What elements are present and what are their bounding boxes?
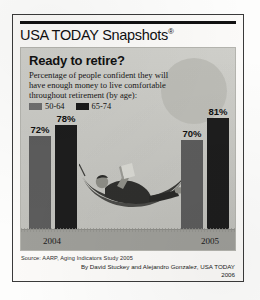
bar-2004-65-74: 78%	[55, 113, 77, 230]
bar-rect-2005-50-64	[181, 140, 203, 230]
hammock-illustration	[79, 144, 191, 230]
masthead-rule	[20, 21, 236, 24]
bar-rect-2004-65-74	[55, 125, 77, 230]
bar-2005-65-74: 81%	[207, 106, 229, 230]
bar-rect-2005-65-74	[207, 118, 229, 230]
bar-value-2004-65-74: 78%	[56, 113, 75, 124]
bar-2004-50-64: 72%	[29, 124, 51, 230]
brand-title: USA TODAY Snapshots®	[20, 27, 236, 43]
bar-value-2005-50-64: 70%	[182, 128, 201, 139]
axis-label-2004: 2004	[43, 236, 61, 246]
hammock-figure-icon	[79, 144, 191, 230]
bar-value-2005-65-74: 81%	[208, 106, 227, 117]
byline-credit: By David Stuckey and Alejandro Gonzalez,…	[35, 263, 235, 271]
clipping-frame: USA TODAY Snapshots® Ready to retire? Pe…	[12, 14, 244, 282]
brand-title-text: USA TODAY Snapshots	[20, 27, 168, 43]
masthead: USA TODAY Snapshots®	[20, 21, 236, 43]
ground-texture	[21, 228, 236, 232]
bar-value-2004-50-64: 72%	[30, 124, 49, 135]
snapshot-clipping: USA TODAY Snapshots® Ready to retire? Pe…	[0, 0, 260, 300]
byline: By David Stuckey and Alejandro Gonzalez,…	[35, 263, 235, 279]
source-note: Source: AARP, Aging Indicators Study 200…	[21, 255, 133, 261]
chart-panel: Ready to retire? Percentage of people co…	[20, 47, 236, 251]
plot-area: 72% 78% 70% 81%	[21, 48, 236, 251]
bar-rect-2004-50-64	[29, 136, 51, 230]
bar-2005-50-64: 70%	[181, 128, 203, 230]
axis-label-2005: 2005	[201, 236, 219, 246]
registered-trademark-icon: ®	[168, 27, 174, 36]
byline-year: 2006	[35, 271, 235, 279]
bar-group-2004: 72% 78%	[29, 113, 77, 230]
bar-group-2005: 70% 81%	[181, 106, 229, 230]
